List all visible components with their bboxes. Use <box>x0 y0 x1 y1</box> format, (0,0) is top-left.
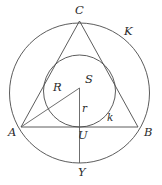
label-vertex-a: A <box>8 127 16 139</box>
label-vertex-c: C <box>75 5 84 17</box>
label-circumradius-r-upper: R <box>53 82 62 94</box>
label-center-s: S <box>85 74 93 86</box>
label-foot-u: U <box>78 130 88 142</box>
segment-circumradius-SA <box>21 88 80 127</box>
label-point-y: Y <box>78 167 86 179</box>
label-inradius-r-lower: r <box>82 103 87 114</box>
geometry-figure: C A B S U Y R r k K <box>0 0 162 185</box>
label-vertex-b: B <box>144 127 152 139</box>
figure-canvas <box>0 0 162 185</box>
label-circumcircle-k-upper: K <box>124 26 133 38</box>
label-incircle-k: k <box>107 112 113 123</box>
